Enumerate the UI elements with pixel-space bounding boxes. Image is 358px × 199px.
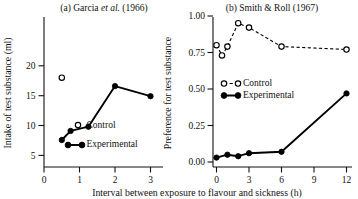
- panel-b-ytick-025: 0.25: [188, 121, 205, 131]
- shared-x-axis-title: Interval between exposure to flavour and…: [92, 187, 302, 199]
- panel-b-legend-control-label: Control: [243, 78, 272, 88]
- panel-a-title-suffix: (1966): [120, 3, 148, 14]
- panel-a-xtick-2: 2: [113, 175, 118, 185]
- panel-a-title: (a) Garcia et al. (1966): [60, 3, 147, 14]
- panel-b-legend-experimental-icon-left: [221, 93, 227, 99]
- panel-a-control-markers: [59, 75, 64, 80]
- panel-a-y-axis-title: Intake of test substance (ml): [2, 38, 14, 149]
- panel-a-ytick-5: 5: [31, 151, 36, 161]
- panel-b-xtick-0: 0: [214, 175, 219, 185]
- panel-b-ytick-100: 1.00: [188, 11, 205, 21]
- panel-b-experimental-markers: [214, 91, 349, 161]
- panel-b-ytick-000: 0.00: [188, 157, 205, 167]
- panel-b-ytick-050: 0.50: [188, 84, 205, 94]
- panel-a-x-ticks: 0 1 2 3: [42, 167, 154, 185]
- panel-a-legend-experimental-icon-right: [79, 142, 85, 148]
- panel-a-ytick-20: 20: [26, 61, 36, 71]
- panel-b-experimental-line: [217, 93, 347, 157]
- panel-a-xtick-1: 1: [77, 175, 82, 185]
- panel-b: (b) Smith & Roll (1967) Preference for t…: [162, 3, 352, 185]
- panel-a-legend-control-label: Control: [87, 120, 116, 130]
- panel-b-control-markers: [214, 21, 349, 59]
- panel-b-legend-control-icon-right: [235, 81, 240, 86]
- panel-a-y-ticks: 5 10 15 20: [26, 61, 44, 161]
- panel-a-title-italic: et al.: [101, 3, 120, 13]
- panel-b-control-line: [217, 23, 347, 55]
- panel-b-legend-experimental-label: Experimental: [243, 90, 295, 100]
- panel-b-ytick-075: 0.75: [188, 48, 205, 58]
- panel-b-legend: Control Experimental: [221, 78, 294, 100]
- panel-b-xtick-9: 9: [312, 175, 317, 185]
- panel-a-xtick-0: 0: [42, 175, 47, 185]
- panel-a-legend-experimental-icon-left: [65, 142, 71, 148]
- panel-a-ytick-15: 15: [26, 91, 36, 101]
- panel-b-title: (b) Smith & Roll (1967): [226, 3, 318, 14]
- panel-a-title-prefix: (a) Garcia: [60, 3, 101, 14]
- panel-b-y-ticks: 0.00 0.25 0.50 0.75 1.00: [188, 11, 213, 167]
- panel-a: (a) Garcia et al. (1966) Intake of test …: [2, 3, 163, 185]
- panel-a-legend-control-icon: [75, 122, 80, 127]
- panel-b-y-axis-title: Preference for test substance: [162, 36, 173, 149]
- panel-a-legend-experimental-label: Experimental: [87, 139, 139, 149]
- panel-b-xtick-12: 12: [342, 175, 352, 185]
- panel-a-legend: Control Experimental: [65, 120, 138, 150]
- panel-b-legend-experimental-icon-right: [235, 93, 241, 99]
- panel-a-ytick-10: 10: [26, 121, 36, 131]
- panel-b-legend-control-icon-left: [221, 81, 226, 86]
- panel-b-xtick-6: 6: [279, 175, 284, 185]
- panel-a-xtick-3: 3: [148, 175, 153, 185]
- two-panel-line-chart-figure: (a) Garcia et al. (1966) Intake of test …: [0, 0, 358, 199]
- panel-b-x-ticks: 0 3 6 9 12: [214, 167, 351, 185]
- panel-a-experimental-line: [62, 86, 151, 140]
- panel-b-xtick-3: 3: [247, 175, 252, 185]
